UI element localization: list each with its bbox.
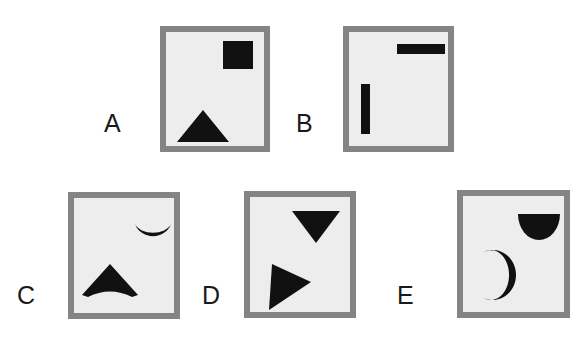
panel-a-inner xyxy=(166,32,264,146)
vertical-bar-icon xyxy=(361,84,370,134)
half-disc-down-icon xyxy=(518,214,560,240)
panel-e xyxy=(457,190,570,318)
downward-triangle-icon xyxy=(292,211,340,243)
crescent-left-icon xyxy=(479,250,513,300)
horizontal-bar-icon xyxy=(397,44,445,54)
panel-label-d: D xyxy=(202,283,221,308)
filled-square-icon xyxy=(223,41,253,69)
figure-canvas: A B C xyxy=(0,0,588,345)
panel-d-inner xyxy=(250,197,350,312)
panel-d xyxy=(244,191,356,318)
panel-label-a: A xyxy=(104,111,121,136)
panel-b xyxy=(343,26,454,152)
panel-b-inner xyxy=(349,32,448,146)
panel-label-c: C xyxy=(17,283,36,308)
right-pointing-triangle-icon xyxy=(263,263,311,311)
panel-label-e: E xyxy=(397,283,414,308)
crescent-up-icon xyxy=(134,222,172,258)
upward-triangle-icon xyxy=(177,110,229,142)
panel-c xyxy=(68,192,180,319)
panel-a xyxy=(160,26,270,152)
panel-c-inner xyxy=(74,198,174,313)
concave-arrowhead-up-icon xyxy=(82,264,138,298)
panel-label-b: B xyxy=(296,111,313,136)
panel-e-inner xyxy=(463,196,564,312)
